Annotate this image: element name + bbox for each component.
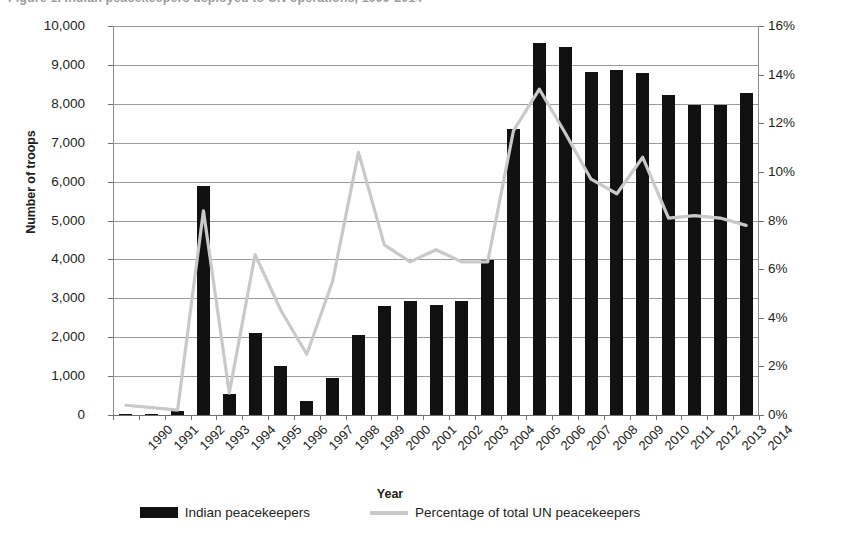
y2-tick-mark (759, 366, 764, 367)
x-tick-mark (423, 415, 424, 420)
y-tick-label: 0 (13, 408, 85, 422)
x-tick-label: 1995 (274, 422, 305, 453)
y2-tick-label: 2% (768, 359, 828, 373)
x-tick-label: 1997 (325, 422, 356, 453)
x-tick-mark (346, 415, 347, 420)
x-tick-label: 2002 (454, 422, 485, 453)
x-tick-mark (216, 415, 217, 420)
legend-label: Percentage of total UN peacekeepers (415, 505, 640, 520)
y-tick-label: 4,000 (13, 252, 85, 266)
x-tick-label: 2007 (584, 422, 615, 453)
legend-bar-swatch-icon (140, 507, 178, 518)
plot-area (113, 26, 759, 415)
x-tick-mark (113, 415, 114, 420)
legend: Indian peacekeepersPercentage of total U… (0, 505, 780, 520)
y2-tick-mark (759, 172, 764, 173)
y2-tick-mark (759, 269, 764, 270)
legend-item[interactable]: Percentage of total UN peacekeepers (370, 505, 640, 520)
x-tick-mark (578, 415, 579, 420)
x-tick-label: 2011 (687, 422, 717, 452)
x-tick-mark (526, 415, 527, 420)
x-tick-mark (733, 415, 734, 420)
percentage-line (126, 89, 746, 410)
x-tick-label: 1994 (248, 422, 279, 453)
x-tick-mark (268, 415, 269, 420)
x-tick-label: 1996 (299, 422, 330, 453)
figure-caption-text: Figure 1. Indian peacekeepers deployed t… (0, 0, 847, 5)
x-tick-label: 2012 (713, 422, 744, 453)
line-series-percentage (113, 26, 759, 415)
x-tick-mark (165, 415, 166, 420)
y2-tick-label: 12% (768, 116, 828, 130)
chart-container: Figure 1. Indian peacekeepers deployed t… (0, 0, 847, 547)
x-tick-mark (242, 415, 243, 420)
y-tick-label: 5,000 (13, 214, 85, 228)
x-tick-label: 2000 (403, 422, 434, 453)
x-axis-title: Year (0, 487, 780, 501)
x-tick-mark (656, 415, 657, 420)
y2-tick-label: 4% (768, 311, 828, 325)
x-tick-mark (707, 415, 708, 420)
y-tick-label: 3,000 (13, 291, 85, 305)
legend-item[interactable]: Indian peacekeepers (140, 505, 310, 520)
y2-tick-label: 16% (768, 19, 828, 33)
x-tick-mark (501, 415, 502, 420)
y-tick-label: 1,000 (13, 369, 85, 383)
y2-tick-label: 8% (768, 214, 828, 228)
y2-tick-mark (759, 318, 764, 319)
y-tick-label: 10,000 (13, 19, 85, 33)
x-tick-label: 2001 (429, 422, 460, 453)
x-tick-label: 2014 (765, 422, 796, 453)
x-tick-mark (475, 415, 476, 420)
x-tick-mark (191, 415, 192, 420)
x-tick-label: 2005 (532, 422, 563, 453)
y2-tick-label: 0% (768, 408, 828, 422)
y-tick-label: 8,000 (13, 97, 85, 111)
x-tick-mark (552, 415, 553, 420)
y2-tick-label: 14% (768, 68, 828, 82)
x-tick-label: 2010 (661, 422, 692, 453)
x-tick-label: 1992 (196, 422, 227, 453)
x-tick-mark (759, 415, 760, 420)
x-tick-label: 1993 (222, 422, 253, 453)
x-tick-label: 2008 (610, 422, 641, 453)
y2-tick-label: 10% (768, 165, 828, 179)
x-tick-mark (294, 415, 295, 420)
y-tick-label: 2,000 (13, 330, 85, 344)
y2-tick-label: 6% (768, 262, 828, 276)
x-tick-mark (630, 415, 631, 420)
x-tick-mark (681, 415, 682, 420)
y2-tick-mark (759, 221, 764, 222)
y2-tick-mark (759, 26, 764, 27)
x-tick-mark (139, 415, 140, 420)
x-axis-line (113, 415, 759, 416)
x-tick-label: 2004 (506, 422, 537, 453)
legend-line-swatch-icon (370, 511, 408, 515)
x-tick-label: 2006 (558, 422, 589, 453)
x-tick-label: 1998 (351, 422, 382, 453)
y-tick-label: 9,000 (13, 58, 85, 72)
x-tick-label: 2003 (480, 422, 511, 453)
legend-label: Indian peacekeepers (185, 505, 310, 520)
x-tick-label: 1990 (144, 422, 175, 453)
x-tick-label: 2013 (739, 422, 770, 453)
x-tick-mark (449, 415, 450, 420)
y-tick-label: 6,000 (13, 175, 85, 189)
x-tick-label: 1991 (170, 422, 201, 453)
y2-tick-mark (759, 75, 764, 76)
x-tick-mark (320, 415, 321, 420)
x-tick-label: 1999 (377, 422, 408, 453)
x-tick-mark (604, 415, 605, 420)
y2-tick-mark (759, 123, 764, 124)
figure-caption: Figure 1. Indian peacekeepers deployed t… (0, 0, 847, 5)
x-tick-mark (397, 415, 398, 420)
y-tick-label: 7,000 (13, 136, 85, 150)
x-tick-label: 2009 (635, 422, 666, 453)
x-tick-mark (371, 415, 372, 420)
